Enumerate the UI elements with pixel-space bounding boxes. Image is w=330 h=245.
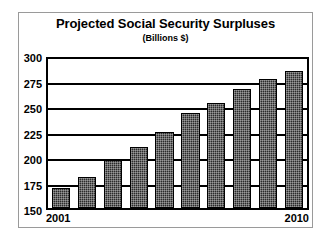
y-axis-tick-label: 250: [2, 104, 42, 115]
chart-figure: Projected Social Security Surpluses (Bil…: [0, 0, 330, 245]
x-axis-tick-label-first: 2001: [46, 212, 70, 225]
bar: [233, 89, 251, 208]
y-axis-tick-label: 300: [2, 53, 42, 64]
chart-title-block: Projected Social Security Surpluses (Bil…: [18, 16, 313, 44]
bar: [259, 79, 277, 208]
y-axis-tick-label: 200: [2, 155, 42, 166]
chart-subtitle: (Billions $): [18, 32, 313, 44]
bar: [52, 188, 70, 208]
x-axis-tick-labels: 2001 2010: [46, 212, 309, 228]
bar: [155, 132, 173, 208]
y-axis-tick-label: 225: [2, 130, 42, 141]
y-axis-tick-label: 175: [2, 181, 42, 192]
bar: [130, 147, 148, 208]
bar: [78, 177, 96, 208]
y-axis-tick-label: 275: [2, 79, 42, 90]
bar: [285, 71, 303, 208]
page-title: Projected Social Security Surpluses: [18, 16, 313, 31]
y-axis-tick-labels: 300 275 250 225 200 175 150: [0, 57, 42, 210]
x-axis-tick-label-last: 2010: [285, 212, 309, 225]
bar-series: [48, 59, 307, 208]
bar: [104, 160, 122, 208]
plot-area: [46, 57, 309, 210]
y-axis-tick-label: 150: [2, 206, 42, 217]
bar: [207, 103, 225, 208]
bar: [181, 113, 199, 208]
